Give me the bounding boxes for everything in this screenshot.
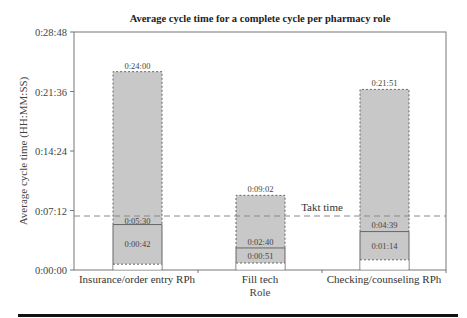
range-box (360, 89, 409, 259)
avg-label: 0:02:40 (248, 237, 274, 247)
bar-group: 0:09:020:02:400:00:51 (236, 184, 285, 270)
min-label: 0:00:51 (248, 251, 274, 261)
below-min (237, 263, 285, 270)
x-category-label: Checking/counseling RPh (327, 273, 442, 285)
range-box (113, 72, 162, 265)
y-axis-title: Average cycle time (HH:MM:SS) (17, 76, 30, 225)
y-tick-label: 0:14:24 (35, 146, 68, 157)
y-tick-label: 0:07:12 (35, 206, 67, 217)
x-category-label: Fill tech (242, 273, 279, 285)
y-tick-label: 0:21:36 (35, 87, 67, 98)
x-axis-categories: Insurance/order entry RPhFill techChecki… (79, 270, 446, 285)
below-min (114, 264, 162, 269)
below-min (361, 260, 409, 270)
x-category-label: Insurance/order entry RPh (79, 273, 196, 285)
max-label: 0:24:00 (125, 61, 151, 71)
bars: 0:24:000:05:300:00:420:09:020:02:400:00:… (113, 61, 409, 270)
y-axis-ticks: 0:00:000:07:120:14:240:21:360:28:48 (35, 27, 74, 276)
bar-group: 0:21:510:04:390:01:14 (360, 78, 409, 270)
bottom-rule (18, 314, 458, 317)
avg-label: 0:04:39 (372, 220, 398, 230)
takt-label: Takt time (301, 201, 343, 213)
min-label: 0:00:42 (125, 239, 151, 249)
x-axis-title: Role (250, 286, 271, 298)
y-tick-label: 0:28:48 (35, 27, 67, 38)
avg-label: 0:05:30 (125, 216, 151, 226)
min-label: 0:01:14 (372, 241, 399, 251)
bar-group: 0:24:000:05:300:00:42 (113, 61, 162, 270)
max-label: 0:21:51 (372, 78, 398, 88)
chart: Average cycle time for a complete cycle … (0, 0, 467, 318)
max-label: 0:09:02 (248, 184, 274, 194)
chart-title: Average cycle time for a complete cycle … (130, 13, 391, 24)
y-tick-label: 0:00:00 (35, 265, 67, 276)
